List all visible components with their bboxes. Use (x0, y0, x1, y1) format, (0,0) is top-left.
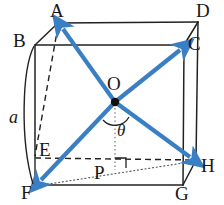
vertex-label-E: E (39, 140, 51, 159)
edge-length-label-a: a (9, 108, 18, 126)
arrow-O-to-H (115, 102, 190, 157)
angle-label-theta: θ (117, 122, 125, 139)
vertex-label-A: A (50, 1, 64, 20)
arrow-O-to-C (115, 50, 180, 102)
edge-GH (183, 160, 196, 185)
vertex-label-H: H (201, 156, 215, 175)
geometry-figure-canvas: A B C D E F G H O P a θ (0, 0, 224, 205)
vertex-label-F: F (21, 183, 32, 202)
vertex-label-D: D (196, 1, 210, 20)
vertex-label-B: B (13, 31, 26, 50)
vertex-label-G: G (175, 184, 189, 203)
cube-diagram-svg (0, 0, 224, 205)
edge-CG (183, 45, 184, 185)
foot-label-P: P (94, 163, 105, 182)
vertex-label-C: C (188, 34, 201, 53)
floor-diagonal-dotted (36, 161, 196, 186)
diagonal-FH (36, 161, 196, 186)
center-label-O: O (107, 74, 121, 93)
edge-AD (58, 22, 198, 23)
edge-length-brace (24, 46, 34, 184)
edge-AB (35, 23, 58, 45)
center-point-dot (111, 98, 119, 106)
